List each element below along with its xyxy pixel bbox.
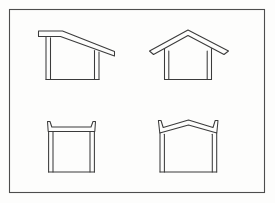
figure-canvas: Roof profile line drawings	[0, 0, 275, 203]
figure-frame	[0, 0, 275, 203]
